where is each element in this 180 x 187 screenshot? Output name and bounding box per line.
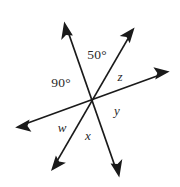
arrowhead-right-icon bbox=[153, 67, 169, 79]
line-shallow bbox=[26, 76, 158, 124]
angle-label-50: 50° bbox=[87, 48, 107, 62]
geometry-canvas bbox=[0, 0, 180, 187]
arrowhead-upper-left-icon bbox=[61, 22, 73, 40]
angle-label-x: x bbox=[85, 129, 91, 142]
angle-label-w: w bbox=[58, 121, 67, 134]
angle-diagram: 50° 90° z y w x bbox=[0, 0, 180, 187]
arrowhead-lower-right-icon bbox=[111, 159, 123, 177]
arrowhead-left-icon bbox=[15, 119, 31, 131]
angle-label-z: z bbox=[117, 70, 122, 83]
angle-label-90: 90° bbox=[51, 76, 71, 90]
angle-label-y: y bbox=[114, 104, 120, 117]
